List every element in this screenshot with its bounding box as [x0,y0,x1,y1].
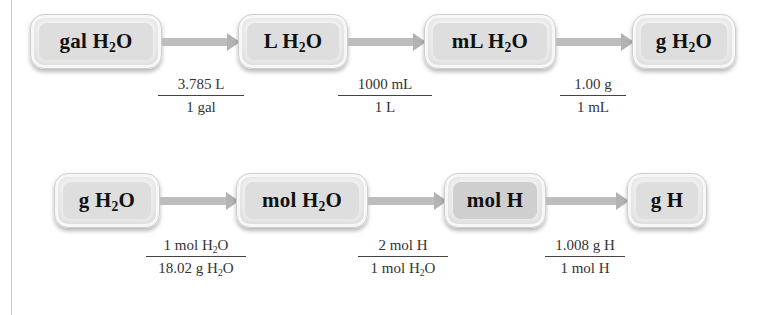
arrow-right-icon [348,38,414,46]
factor-denominator: 1 mol H2O [358,257,448,277]
conversion-factor: 1.00 g 1 mL [560,76,626,116]
factor-denominator: 1 mol H [545,257,625,277]
node-moles-water: mol H2O [236,173,368,228]
factor-numerator: 2 mol H [358,237,448,257]
conversion-factor: 1 mol H2O 18.02 g H2O [146,237,246,277]
node-label: g H2O [656,29,712,54]
node-grams-hydrogen: g H [627,173,707,228]
node-moles-hydrogen: mol H [444,173,546,228]
node-liters-water: L H2O [238,14,348,69]
arrow-right-icon [160,197,227,205]
factor-numerator: 1.008 g H [545,237,625,257]
node-label: mL H2O [452,29,528,54]
arrow-right-icon [162,38,228,46]
node-grams-water: g H2O [632,14,736,69]
factor-numerator: 1 mol H2O [146,237,246,257]
factor-denominator: 18.02 g H2O [146,257,246,277]
node-label: g H2O [79,188,135,213]
node-label: gal H2O [59,29,132,54]
conversion-factor: 2 mol H 1 mol H2O [358,237,448,277]
left-border-line [11,0,12,315]
arrow-right-icon [368,197,435,205]
conversion-factor: 1000 mL 1 L [338,76,432,116]
factor-numerator: 3.785 L [158,76,244,96]
factor-denominator: 1 mL [560,96,626,116]
factor-numerator: 1000 mL [338,76,432,96]
node-label: g H [651,188,684,213]
node-label: L H2O [264,29,323,54]
node-milliliters-water: mL H2O [424,14,556,69]
factor-denominator: 1 gal [158,96,244,116]
conversion-factor: 1.008 g H 1 mol H [545,237,625,277]
arrow-right-icon [556,38,622,46]
conversion-factor: 3.785 L 1 gal [158,76,244,116]
node-gal-water: gal H2O [30,14,162,69]
node-grams-water-2: g H2O [54,173,160,228]
factor-numerator: 1.00 g [560,76,626,96]
node-label: mol H [467,188,523,213]
arrow-right-icon [546,197,617,205]
node-label: mol H2O [262,188,342,213]
factor-denominator: 1 L [338,96,432,116]
